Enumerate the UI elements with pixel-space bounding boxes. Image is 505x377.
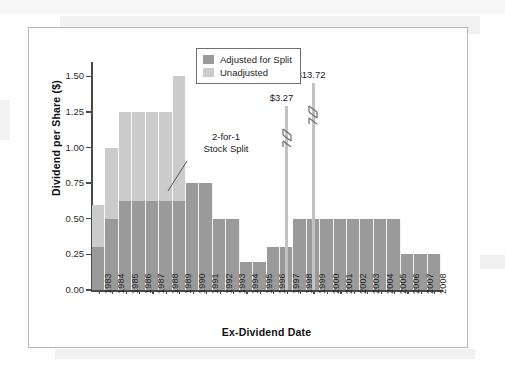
y-tick-label: 0.25 bbox=[29, 248, 84, 259]
y-tick-label: 0.00 bbox=[29, 284, 84, 295]
x-tick-mark bbox=[300, 290, 301, 294]
x-tick-mark bbox=[327, 290, 328, 294]
bar-chart: 0.000.250.500.751.001.251.50 19831984198… bbox=[29, 28, 469, 349]
stock-split-line1: 2-for-1 bbox=[187, 131, 265, 143]
x-tick-mark bbox=[313, 290, 314, 294]
plot-area bbox=[92, 62, 441, 290]
y-tick-mark bbox=[86, 147, 91, 148]
x-tick-mark bbox=[152, 290, 153, 294]
y-tick-mark bbox=[86, 111, 91, 112]
y-tick-mark bbox=[86, 218, 91, 219]
x-tick-mark bbox=[99, 290, 100, 294]
x-tick-mark bbox=[407, 290, 408, 294]
x-tick-mark bbox=[354, 290, 355, 294]
axis-break-icon bbox=[281, 128, 295, 148]
scanned-page: 0.000.250.500.751.001.251.50 19831984198… bbox=[0, 0, 505, 377]
x-tick-mark bbox=[394, 290, 395, 294]
legend-item-unadjusted: Unadjusted bbox=[203, 66, 292, 79]
x-tick-mark bbox=[166, 290, 167, 294]
stock-split-line2: Stock Split bbox=[187, 143, 265, 155]
y-tick-mark bbox=[86, 289, 91, 290]
scan-artifact-left bbox=[0, 100, 10, 140]
x-tick-mark bbox=[220, 290, 221, 294]
x-tick-mark bbox=[287, 290, 288, 294]
x-tick-mark bbox=[193, 290, 194, 294]
x-axis-title: Ex-Dividend Date bbox=[92, 326, 441, 338]
y-tick-mark bbox=[86, 254, 91, 255]
x-tick-mark bbox=[112, 290, 113, 294]
x-tick-mark bbox=[126, 290, 127, 294]
x-tick-mark bbox=[179, 290, 180, 294]
x-tick-mark bbox=[381, 290, 382, 294]
x-tick-mark bbox=[273, 290, 274, 294]
legend-swatch-icon bbox=[203, 55, 214, 64]
x-tick-mark bbox=[421, 290, 422, 294]
y-tick-mark bbox=[86, 76, 91, 77]
axis-break-icon bbox=[307, 105, 321, 125]
x-tick-label: 2008 bbox=[438, 273, 448, 294]
x-tick-mark bbox=[367, 290, 368, 294]
x-tick-mark bbox=[340, 290, 341, 294]
x-tick-mark bbox=[206, 290, 207, 294]
x-tick-mark bbox=[233, 290, 234, 294]
legend-swatch-icon bbox=[203, 68, 214, 77]
scan-artifact-right bbox=[480, 255, 505, 269]
x-tick-mark bbox=[139, 290, 140, 294]
y-axis-title: Dividend per Share ($) bbox=[50, 43, 62, 233]
scan-artifact-top bbox=[0, 0, 505, 14]
legend-item-adjusted: Adjusted for Split bbox=[203, 53, 292, 66]
legend-label: Adjusted for Split bbox=[220, 54, 292, 65]
x-tick-mark bbox=[246, 290, 247, 294]
x-tick-mark bbox=[260, 290, 261, 294]
x-tick-mark bbox=[434, 290, 435, 294]
legend: Adjusted for Split Unadjusted bbox=[196, 48, 301, 84]
figure-frame: 0.000.250.500.751.001.251.50 19831984198… bbox=[28, 27, 468, 348]
y-tick-mark bbox=[86, 182, 91, 183]
legend-label: Unadjusted bbox=[220, 67, 268, 78]
spike-value-label: $13.72 bbox=[296, 69, 325, 80]
scan-artifact-bottom bbox=[55, 349, 475, 359]
spike-value-label: $3.27 bbox=[270, 92, 294, 103]
stock-split-annotation: 2-for-1 Stock Split bbox=[187, 131, 265, 154]
